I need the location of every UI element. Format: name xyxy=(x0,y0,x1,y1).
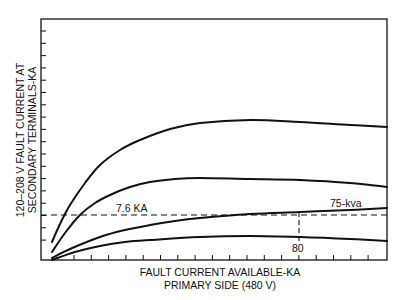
reference-x-value-label: 80 xyxy=(292,242,304,254)
curve-label-75kva: 75-kva xyxy=(330,197,362,209)
x-axis-ticks xyxy=(74,255,368,260)
plot-frame xyxy=(41,19,387,260)
y-axis-label-line2: SECONDARY TERMINALS-KA xyxy=(26,63,38,217)
x-axis-label-line2: PRIMARY SIDE (480 V) xyxy=(120,279,320,292)
plot-border xyxy=(41,19,387,260)
x-axis-label: FAULT CURRENT AVAILABLE-KA PRIMARY SIDE … xyxy=(120,266,320,292)
curve-4 xyxy=(52,236,387,260)
data-curves xyxy=(52,120,387,260)
curve-1 xyxy=(52,120,387,242)
x-axis-label-line1: FAULT CURRENT AVAILABLE-KA xyxy=(120,266,320,279)
y-axis-label-line1: 120–208 V FAULT CURRENT AT xyxy=(14,63,26,217)
chart-canvas xyxy=(0,0,403,300)
y-axis-ticks xyxy=(41,31,46,240)
reference-current-label: 7.6 KA xyxy=(116,202,148,214)
